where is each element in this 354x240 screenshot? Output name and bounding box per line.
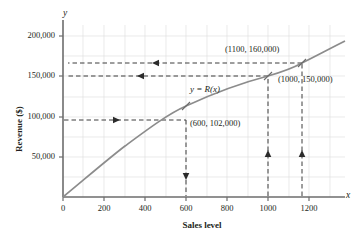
x-tick-label-0: 0: [43, 203, 83, 213]
x-tick-label-600: 600: [166, 203, 206, 213]
guide-lines: [64, 63, 302, 196]
y-tick-label-50000: 50,000: [0, 151, 55, 161]
revenue-function-chart: y x 200,000 150,000 100,000 50,000 0 200…: [0, 0, 354, 240]
arrow-left-160000: [152, 60, 159, 67]
x-axis-variable: x: [346, 190, 350, 200]
x-tick-label-400: 400: [125, 203, 165, 213]
axis-lines: [63, 20, 345, 197]
x-tick-label-800: 800: [207, 203, 247, 213]
point-label-600-102000: (600, 102,000): [190, 118, 240, 128]
arrow-up-1100: [299, 150, 306, 157]
point-label-1000-150000: (1000, 150,000): [278, 74, 333, 84]
x-tick-label-200: 200: [84, 203, 124, 213]
curve-equation-label: y = R(x): [190, 84, 220, 94]
y-tick-label-100000: 100,000: [0, 111, 55, 121]
x-tick-label-1200: 1200: [289, 203, 329, 213]
x-axis-title: Sales level: [142, 220, 262, 230]
point-label-1100-160000: (1100, 160,000): [225, 44, 279, 54]
x-tick-label-1000: 1000: [248, 203, 288, 213]
y-tick-label-200000: 200,000: [0, 30, 55, 40]
y-tick-label-150000: 150,000: [0, 70, 55, 80]
arrow-up-1000: [265, 150, 272, 157]
y-axis-title: Revenue ($): [14, 106, 24, 152]
arrow-down-600: [183, 173, 190, 180]
arrow-right-102000: [113, 117, 120, 124]
arrow-left-150000: [137, 73, 144, 80]
grid-lines: [63, 25, 345, 197]
y-axis-variable: y: [63, 8, 67, 18]
